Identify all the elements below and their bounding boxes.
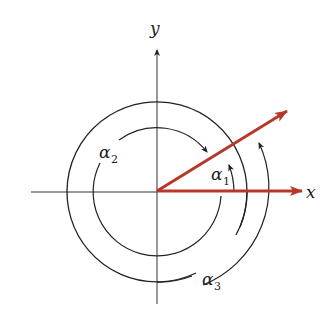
- svg-text:3: 3: [214, 280, 221, 293]
- alpha2-arc-upper: [119, 128, 207, 152]
- y-axis-label: y: [149, 18, 160, 38]
- outer-circle-lower: [236, 192, 247, 235]
- angle-diagram: y x α 1 α 2 α 3: [0, 0, 334, 319]
- alpha3-label: α 3: [202, 269, 221, 293]
- x-axis-label: x: [306, 182, 316, 202]
- svg-text:1: 1: [223, 175, 230, 188]
- svg-text:2: 2: [111, 153, 118, 166]
- diagram-canvas: y x α 1 α 2 α 3: [0, 0, 334, 319]
- svg-text:α: α: [202, 269, 214, 289]
- svg-text:α: α: [99, 142, 111, 162]
- alpha2-label: α 2: [99, 142, 118, 166]
- svg-text:α: α: [211, 164, 223, 184]
- alpha1-label: α 1: [211, 164, 230, 188]
